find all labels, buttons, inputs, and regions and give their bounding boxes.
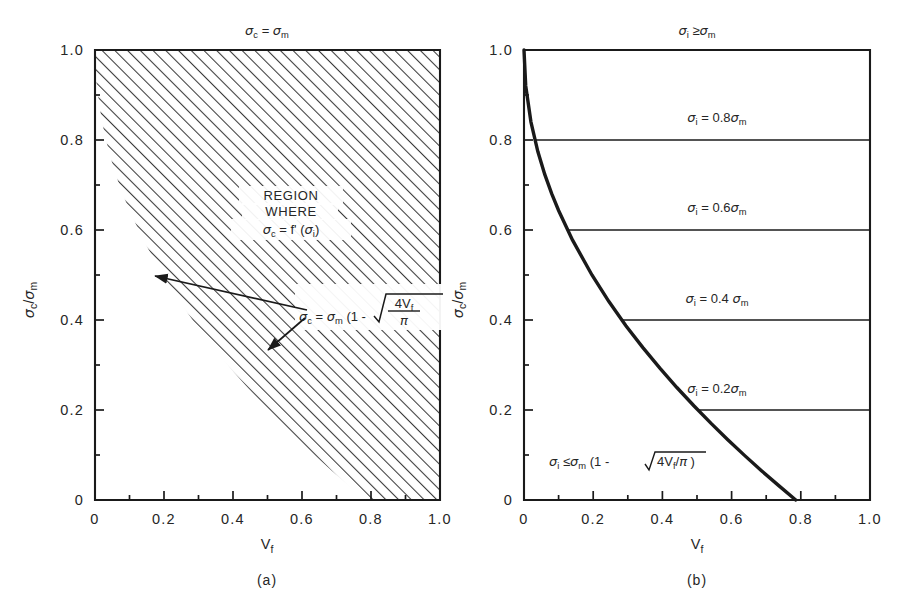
y-tick-label: 0 [75,492,84,508]
y-tick-label: 0.4 [489,312,513,328]
y-tick-label: 0.2 [489,402,513,418]
x-tick-label: 1.0 [428,511,452,527]
x-tick-label: 0.6 [290,511,314,527]
y-tick-label: 1.0 [60,42,84,58]
figure-svg: 00.20.40.60.81.0 00.20.40.60.81.0 σc = σ… [0,0,915,599]
x-tick-label: 0.2 [152,511,176,527]
panel-a-label: (a) [257,572,277,588]
x-tick-label: 0.4 [221,511,245,527]
y-tick-label: 0.8 [60,132,84,148]
x-tick-label: 0.2 [581,511,605,527]
y-tick-label: 0.8 [489,132,513,148]
x-tick-label: 0.6 [720,511,744,527]
y-tick-label: 0.6 [489,222,513,238]
panel-a-equation-annotation: σc = σm (1 - 4Vf π [295,284,447,330]
x-tick-label: 0.4 [651,511,675,527]
y-tick-label: 0.4 [60,312,84,328]
region-line-2: WHERE [265,204,316,219]
panel-b-radicand: 4Vf/π ) [657,454,695,471]
radicand-denominator: π [400,313,408,328]
figure-container: 00.20.40.60.81.0 00.20.40.60.81.0 σc = σ… [0,0,915,599]
region-line-1: REGION [264,188,319,203]
x-tick-label: 0.8 [359,511,383,527]
panel-b-label: (b) [687,572,707,588]
x-tick-label: 1.0 [858,511,882,527]
panel-a-region-annotation: REGION WHERE σc = f' (σi) [231,186,351,240]
x-tick-label: 0 [519,511,528,527]
y-tick-label: 1.0 [489,42,513,58]
y-tick-label: 0.6 [60,222,84,238]
x-tick-label: 0.8 [789,511,813,527]
x-tick-label: 0 [90,511,99,527]
y-tick-label: 0.2 [60,402,84,418]
panel-b-label-04: σi = 0.4 σm [686,291,749,308]
y-tick-label: 0 [504,492,513,508]
